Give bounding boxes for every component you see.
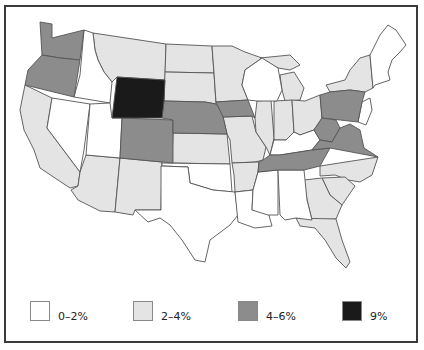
state-washington [40, 22, 84, 60]
state-indiana [274, 100, 294, 140]
legend-swatch-white [30, 301, 50, 321]
legend-item-9: 9% [342, 296, 387, 326]
legend-swatch-light-grey [133, 301, 153, 321]
state-colorado [120, 118, 173, 163]
state-kansas [172, 133, 230, 164]
state-pennsylvania [320, 90, 365, 122]
map-legend: 0–2% 2–4% 4–6% 9% [0, 296, 424, 326]
state-new-england [370, 25, 406, 88]
legend-label: 0–2% [58, 300, 88, 323]
state-south-dakota [164, 72, 216, 104]
state-wyoming [112, 77, 165, 118]
legend-item-0-2: 0–2% [30, 296, 88, 326]
legend-swatch-medium-grey [238, 301, 258, 321]
state-new-york [326, 55, 373, 92]
legend-label: 4–6% [266, 300, 296, 323]
state-alabama [278, 170, 312, 220]
legend-label: 2–4% [161, 300, 191, 323]
state-new-mexico [115, 158, 162, 215]
state-florida [296, 218, 350, 268]
legend-swatch-black [342, 301, 362, 321]
state-iowa [216, 100, 255, 118]
us-choropleth-map [0, 0, 424, 290]
legend-item-4-6: 4–6% [238, 296, 296, 326]
legend-item-2-4: 2–4% [133, 296, 191, 326]
state-north-dakota [165, 44, 214, 73]
legend-label: 9% [370, 300, 387, 323]
